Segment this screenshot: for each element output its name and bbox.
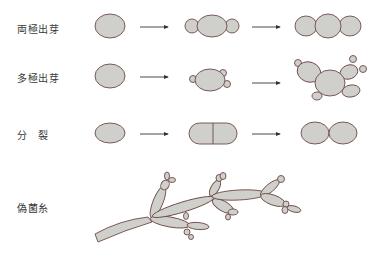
bud [189,235,194,240]
row-pseudohyphae [95,172,302,242]
bud [278,176,285,183]
mother-cell [95,14,125,38]
bud [220,173,226,180]
hypha-segment [95,217,152,242]
bud [360,66,367,73]
bud [184,213,189,220]
mother-cell [197,15,227,37]
daughter-cell-left [295,16,317,36]
bud [286,204,301,213]
daughter-cell-left [301,122,329,144]
row-multipolar-budding [95,56,367,101]
bud [226,214,231,220]
bud [169,178,176,183]
bud [350,56,357,63]
row-fission [95,122,357,144]
mother-cell [315,70,345,96]
daughter-cell-right [339,16,361,36]
yeast-reproduction-diagram [0,0,380,257]
row-bipolar-budding [95,14,361,38]
mother-cell [95,123,125,143]
hypha-segment [212,189,266,202]
hypha-segment [259,191,287,209]
mother-cell [315,14,341,38]
mother-cell [95,64,125,88]
hypha-segment [187,222,210,231]
bud [184,229,190,235]
mother-cell [195,69,225,91]
daughter-cell-right [329,122,357,144]
